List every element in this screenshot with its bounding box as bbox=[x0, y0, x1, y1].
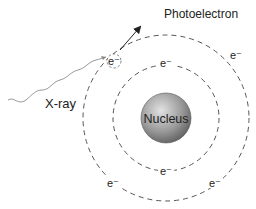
electron-outer-bottom-right: e⁻ bbox=[209, 177, 221, 189]
photoelectron-label: Photoelectron bbox=[164, 7, 238, 21]
nucleus-label: Nucleus bbox=[143, 112, 188, 126]
ejected-electron: e⁻ bbox=[108, 55, 120, 67]
electron-inner-top: e⁻ bbox=[160, 57, 172, 69]
electron-outer-top-right: e⁻ bbox=[230, 49, 242, 61]
x-ray-label: X-ray bbox=[45, 96, 77, 111]
photoelectric-effect-diagram: Nucleus X-ray e⁻ Photoelectron e⁻ e⁻ e⁻ … bbox=[0, 0, 256, 209]
photoelectron-arrow bbox=[120, 27, 140, 50]
electron-inner-bottom: e⁻ bbox=[160, 165, 172, 177]
electron-outer-bottom-left: e⁻ bbox=[107, 177, 119, 189]
